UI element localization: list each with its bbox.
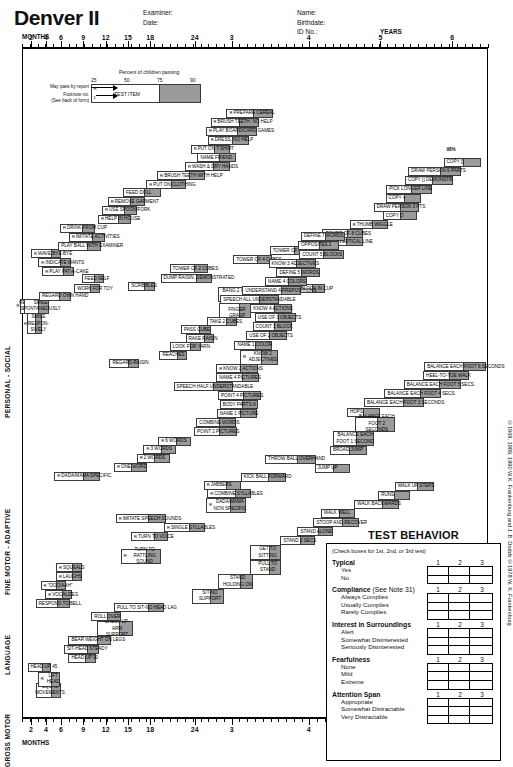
test-item-bar[interactable]: DUMP RAISIN, DEMONSTRATED — [161, 274, 213, 283]
examiner-date-fields[interactable]: Examiner: Date: — [143, 8, 173, 27]
test-item-bar[interactable]: RVOCALIZES — [45, 590, 72, 599]
test-item-bar[interactable]: USE OF 2 OBJECTS — [246, 331, 287, 340]
test-item-bar[interactable]: FEED SELF — [82, 274, 105, 283]
test-item-bar[interactable]: R2 WORDS — [137, 454, 170, 463]
test-item-bar[interactable]: PASS CUBE — [181, 325, 211, 334]
test-item-bar[interactable]: GET TO SITTING — [250, 545, 281, 560]
checkbox-cell[interactable] — [470, 629, 491, 637]
test-item-bar[interactable]: TOWER OF 2 CUBES — [170, 264, 209, 273]
checkbox-cell[interactable] — [470, 576, 491, 584]
test-item-bar[interactable]: COMBINE WORDS — [196, 418, 236, 427]
test-item-bar[interactable]: RPLAY BOARD/CARD GAMES — [206, 127, 257, 136]
test-item-bar[interactable]: RDADA/MAMA NON SPECIFIC — [206, 498, 246, 513]
test-item-bar[interactable]: BALANCE EACH FOOT 3 SECONDS — [364, 398, 424, 407]
test-item-bar[interactable]: PLAY BALL WITH EXAMINER — [58, 242, 101, 251]
checkbox-cell[interactable] — [449, 611, 470, 619]
test-item-bar[interactable]: R6 WORDS — [158, 437, 191, 446]
test-item-bar[interactable]: BROAD JUMP — [330, 446, 368, 455]
checkbox-cell[interactable] — [428, 664, 449, 672]
test-item-bar[interactable]: NAME 4 PICTURES — [216, 373, 259, 382]
test-item-bar[interactable]: LOOK FOR YARN — [170, 342, 202, 351]
test-item-bar[interactable]: WORK FOR TOY — [74, 284, 100, 293]
checkbox-cell[interactable] — [449, 646, 470, 654]
checkbox-cell[interactable] — [470, 664, 491, 672]
test-item-bar[interactable]: RSINGLE SYLLABLES — [164, 523, 205, 532]
test-item-bar[interactable]: PICK LONGER LINE — [386, 185, 431, 194]
checkbox-cell[interactable] — [449, 664, 470, 672]
test-item-bar[interactable]: BALANCE EACH FOOT 2 SECONDS — [355, 417, 395, 432]
checkbox-cell[interactable] — [428, 681, 449, 689]
test-item-bar[interactable]: RKNOW 2 ACTIONS — [216, 364, 258, 373]
test-item-bar[interactable]: WALK BACKWARDS — [354, 500, 398, 509]
checkbox-cell[interactable] — [449, 594, 470, 602]
test-item-bar[interactable]: COPY [] DEMONSTR. — [405, 176, 453, 185]
test-item-bar[interactable]: RHELP IN HOUSE — [98, 215, 131, 224]
test-item-bar[interactable]: DRAW PERSON 6 PARTS — [408, 167, 460, 176]
checkbox-cell[interactable] — [428, 672, 449, 680]
test-item-bar[interactable]: WALK WELL — [321, 509, 355, 518]
checkbox-cell[interactable] — [470, 567, 491, 575]
checkbox-cell[interactable] — [449, 629, 470, 637]
test-item-bar[interactable]: BALANCE EACH FOOT 5 SECS. — [404, 380, 461, 389]
test-item-bar[interactable]: SCRIBBLES — [128, 282, 155, 291]
test-item-bar[interactable]: RDADA/MAMA SPECIFIC — [54, 472, 99, 481]
test-item-bar[interactable]: OPPOSITES 2 — [298, 241, 339, 250]
test-item-bar[interactable]: RUNS — [378, 491, 410, 500]
test-item-bar[interactable]: POINT 4 PICTURES — [218, 391, 261, 400]
checkbox-cell[interactable] — [470, 603, 491, 611]
test-item-bar[interactable]: COPY [] — [444, 158, 482, 167]
checkbox-cell[interactable] — [470, 672, 491, 680]
checkbox-cell[interactable] — [449, 681, 470, 689]
checkbox-cell[interactable] — [428, 716, 449, 724]
test-item-bar[interactable]: SIT-HEAD STEADY — [64, 645, 99, 654]
checkbox-cell[interactable] — [428, 699, 449, 707]
test-item-bar[interactable]: R3 WORDS — [143, 445, 176, 454]
test-item-bar[interactable]: RPUT ON T-SHIRT — [191, 145, 231, 154]
test-item-bar[interactable]: RJABBERS — [204, 481, 242, 490]
test-item-bar[interactable]: KNOW 4 ACTIONS — [250, 304, 292, 313]
test-item-bar[interactable]: RIMITATE SPEECH SOUNDS — [116, 514, 166, 523]
test-item-bar[interactable]: REGARD RAISIN — [109, 359, 139, 368]
test-item-bar[interactable]: RBRUSH TEETH WITH HELP — [157, 171, 205, 180]
test-item-bar[interactable]: ROLL OVER — [91, 612, 121, 621]
test-item-bar[interactable]: RLIFT HEAD — [38, 672, 61, 687]
checkbox-cell[interactable] — [449, 567, 470, 575]
checkbox-cell[interactable] — [470, 646, 491, 654]
test-item-bar[interactable]: KICK BALL FORWARD — [241, 473, 286, 482]
test-item-bar[interactable]: USE OF 3 OBJECTS — [255, 313, 296, 322]
test-item-bar[interactable]: NAME 1 PICTURE — [217, 409, 257, 418]
test-item-bar[interactable]: NAME FRIEND — [197, 153, 235, 162]
test-item-bar[interactable]: HEAD UP 90 — [68, 654, 95, 663]
test-item-bar[interactable]: COPY + — [386, 194, 421, 203]
test-item-bar[interactable]: RWASH & DRY HANDS — [185, 162, 230, 171]
test-item-bar[interactable]: WALK UP STEPS — [395, 482, 435, 491]
checkbox-cell[interactable] — [428, 603, 449, 611]
test-item-bar[interactable]: KNOW 3 ADJECTIVES — [269, 259, 317, 268]
test-item-bar[interactable]: RINDICATE WANTS — [38, 258, 70, 267]
test-item-bar[interactable]: BALANCE EACH FOOT 6 SECONDS — [424, 362, 485, 371]
test-item-bar[interactable]: RBRUSH TEETH, NO HELP — [211, 118, 260, 127]
checkbox-cell[interactable] — [449, 707, 470, 715]
test-item-bar[interactable]: RPREPARE CEREAL — [226, 109, 273, 118]
test-item-bar[interactable]: POINT 2 PICTURES — [194, 427, 237, 436]
test-item-bar[interactable]: THUMB-FINGER GRASP — [219, 303, 251, 318]
name-birthdate-id-fields[interactable]: Name: Birthdate: ID No.: — [297, 8, 325, 37]
test-item-bar[interactable]: RPUT ON CLOTHING — [146, 180, 186, 189]
test-item-bar[interactable]: RKNOW 2 ADJECTIVES — [240, 350, 278, 365]
test-item-bar[interactable]: RPLAY PAT-A-CAKE — [42, 267, 73, 276]
test-item-bar[interactable]: STAND 2 SECS — [280, 536, 314, 545]
test-item-bar[interactable]: JUMP UP — [315, 464, 350, 473]
checkbox-cell[interactable] — [428, 629, 449, 637]
test-item-bar[interactable]: RWAVE BYE-BYE — [31, 249, 61, 258]
checkbox-cell[interactable] — [449, 603, 470, 611]
test-item-bar[interactable]: COUNT 5 BLOCKS — [299, 250, 343, 259]
test-item-bar[interactable]: RDRESS, NO HELP — [208, 136, 249, 145]
test-item-bar[interactable]: FEED DOLL — [123, 188, 161, 197]
checkbox-cell[interactable] — [470, 611, 491, 619]
checkbox-cell[interactable] — [470, 638, 491, 646]
test-item-bar[interactable]: RSMILE RESPON-SIVELY — [27, 313, 42, 334]
checkbox-cell[interactable] — [470, 699, 491, 707]
test-item-bar[interactable]: CHEST UP-ARM SUPPORT — [97, 621, 132, 636]
test-item-bar[interactable]: NAME 1 COLOR — [234, 341, 272, 350]
test-item-bar[interactable]: RLAUGHS — [56, 572, 82, 581]
